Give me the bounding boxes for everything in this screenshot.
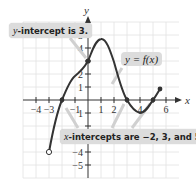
callout-text: -intercepts are −2, 3, and 5. (68, 132, 196, 142)
x-axis-label: x (184, 94, 190, 106)
closed-endpoint-icon (158, 87, 163, 92)
x-axis-arrow-icon (175, 97, 182, 103)
x-intercept-point (125, 98, 130, 103)
callout-text: -intercept is 3. (17, 26, 88, 36)
y-axis-arrow-icon (85, 16, 91, 23)
y-axis-label: y (83, 4, 89, 16)
x-tick-label: 1 (99, 104, 104, 115)
y-tick-label: −4 (72, 147, 83, 158)
x-intercepts-callout: x-intercepts are −2, 3, and 5. (60, 129, 196, 144)
y-intercept-point (85, 58, 90, 63)
y-tick-label: 1 (78, 82, 83, 93)
x-tick-label: 2 (112, 104, 117, 115)
x-tick-label: −4 (31, 104, 42, 115)
function-label-callout: y = f(x) (121, 52, 162, 66)
y-tick-label: −5 (72, 160, 83, 171)
open-endpoint-icon (46, 149, 51, 154)
x-intercept-point (151, 98, 156, 103)
x-tick-label: −3 (44, 104, 55, 115)
x-intercept-point (60, 98, 65, 103)
y-tick-label: 1 (78, 108, 83, 119)
y-intercept-callout: y-intercept is 3. (9, 23, 92, 38)
x-tick-label: 6 (164, 104, 169, 115)
